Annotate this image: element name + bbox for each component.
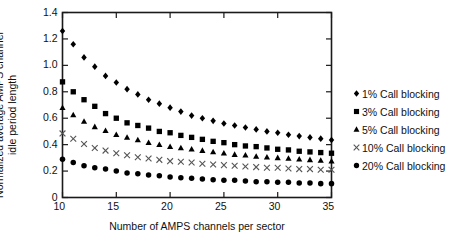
data-point bbox=[81, 163, 87, 169]
data-point bbox=[103, 166, 109, 172]
triangle-icon bbox=[351, 124, 362, 135]
data-point bbox=[285, 155, 291, 161]
data-point bbox=[221, 120, 226, 127]
data-point bbox=[264, 145, 269, 150]
data-point bbox=[243, 178, 249, 184]
y-tick-label: 0.6 bbox=[32, 111, 58, 123]
data-point bbox=[92, 165, 98, 171]
data-point bbox=[318, 157, 324, 163]
data-point bbox=[353, 163, 358, 168]
data-point bbox=[167, 158, 173, 164]
data-point bbox=[297, 149, 302, 154]
triangle-marker bbox=[328, 158, 334, 164]
data-point bbox=[189, 176, 195, 182]
data-point bbox=[200, 176, 206, 182]
circle-marker bbox=[232, 178, 238, 184]
data-point bbox=[243, 143, 248, 148]
data-point bbox=[157, 100, 162, 107]
data-point bbox=[253, 179, 259, 185]
triangle-marker bbox=[113, 131, 119, 137]
legend-label: 5% Call blocking bbox=[362, 124, 440, 136]
legend-marker-circle bbox=[350, 160, 362, 171]
square-marker bbox=[135, 123, 140, 128]
data-point bbox=[146, 96, 151, 103]
y-tick-label: 0.4 bbox=[32, 138, 58, 150]
triangle-marker bbox=[232, 151, 238, 157]
series-diamond bbox=[60, 28, 334, 144]
diamond-marker bbox=[103, 73, 108, 80]
data-point bbox=[286, 131, 291, 138]
y-tick-label: 0.2 bbox=[32, 164, 58, 176]
data-point bbox=[167, 174, 173, 180]
data-point bbox=[167, 104, 172, 111]
square-marker bbox=[81, 97, 86, 102]
square-marker bbox=[60, 79, 65, 84]
data-point bbox=[156, 141, 162, 147]
data-point bbox=[275, 155, 281, 161]
diamond-marker bbox=[189, 112, 194, 119]
legend-label: 3% Call blocking bbox=[362, 106, 440, 118]
triangle-marker bbox=[59, 104, 65, 110]
data-point bbox=[318, 167, 324, 173]
data-point bbox=[71, 89, 76, 94]
data-point bbox=[103, 73, 108, 80]
circle-marker bbox=[178, 175, 184, 181]
data-point bbox=[178, 133, 183, 138]
triangle-marker bbox=[70, 112, 76, 118]
data-point bbox=[353, 126, 359, 131]
data-point bbox=[286, 147, 291, 152]
diamond-marker bbox=[60, 28, 65, 35]
plot-frame bbox=[63, 13, 332, 198]
diamond-marker bbox=[81, 54, 86, 61]
x-tick-label: 20 bbox=[161, 200, 173, 212]
triangle-marker bbox=[167, 143, 173, 149]
circle-marker bbox=[146, 172, 152, 178]
data-point bbox=[124, 86, 129, 93]
data-point bbox=[135, 91, 140, 98]
circle-marker bbox=[157, 173, 163, 179]
data-point bbox=[103, 111, 108, 116]
data-point bbox=[81, 97, 86, 102]
data-point bbox=[135, 171, 141, 177]
data-point bbox=[275, 165, 281, 171]
data-point bbox=[329, 151, 334, 156]
data-point bbox=[60, 28, 65, 35]
series-square bbox=[60, 79, 334, 156]
triangle-marker bbox=[156, 141, 162, 147]
data-point bbox=[318, 150, 323, 155]
legend-item: 3% Call blocking bbox=[350, 104, 468, 119]
triangle-marker bbox=[210, 149, 216, 155]
circle-marker bbox=[286, 180, 292, 186]
data-point bbox=[242, 152, 248, 158]
diamond-marker bbox=[243, 124, 248, 131]
data-point bbox=[124, 134, 130, 140]
circle-marker bbox=[92, 165, 98, 171]
data-point bbox=[114, 116, 119, 121]
square-marker bbox=[221, 140, 226, 145]
square-marker bbox=[114, 116, 119, 121]
diamond-marker bbox=[253, 126, 258, 133]
data-point bbox=[146, 125, 151, 130]
circle-marker bbox=[81, 163, 87, 169]
y-tick-label: 1.0 bbox=[32, 58, 58, 70]
data-point bbox=[92, 104, 97, 109]
square-marker bbox=[254, 144, 259, 149]
data-point bbox=[157, 129, 162, 134]
data-point bbox=[264, 179, 270, 185]
series-circle bbox=[60, 156, 335, 186]
square-marker bbox=[124, 120, 129, 125]
square-marker bbox=[297, 149, 302, 154]
y-tick-label: 1.2 bbox=[32, 32, 58, 44]
diamond-marker bbox=[286, 131, 291, 138]
triangle-marker bbox=[221, 150, 227, 156]
data-point bbox=[353, 145, 359, 151]
circle-marker bbox=[210, 177, 216, 183]
square-marker bbox=[286, 147, 291, 152]
circle-marker bbox=[264, 179, 270, 185]
triangle-marker bbox=[81, 118, 87, 124]
diamond-marker bbox=[135, 91, 140, 98]
square-marker bbox=[210, 139, 215, 144]
triangle-marker bbox=[102, 128, 108, 134]
square-icon bbox=[351, 106, 362, 117]
data-point bbox=[210, 118, 215, 125]
